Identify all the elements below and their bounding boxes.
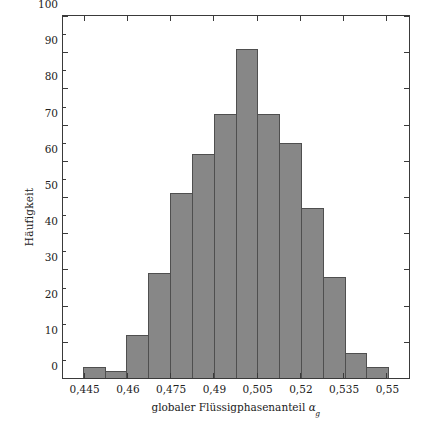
x-axis-tick-mirror — [127, 15, 128, 21]
x-axis-title-subscript: g — [315, 409, 320, 418]
x-axis-title: globaler Flüssigphasenanteil αg — [62, 401, 410, 416]
y-axis-minor-tick — [62, 324, 66, 325]
x-axis-tick — [386, 373, 387, 379]
y-axis-tick-mirror — [404, 88, 410, 89]
y-axis-tick-mirror — [404, 52, 410, 53]
x-axis-tick-label: 0,475 — [156, 383, 186, 395]
histogram-bar — [257, 114, 280, 378]
histogram-bar — [170, 193, 193, 378]
x-axis-tick-label: 0,505 — [243, 383, 273, 395]
histogram-bar — [126, 335, 149, 378]
histogram-bar — [148, 273, 171, 378]
histogram-bars — [63, 16, 409, 378]
y-axis-tick-label: 50 — [45, 179, 58, 191]
y-axis-tick-mirror — [404, 378, 410, 379]
histogram-bar — [279, 143, 302, 378]
y-axis-tick-mirror — [404, 161, 410, 162]
x-axis-tick-mirror — [213, 15, 214, 21]
y-axis-tick — [62, 269, 68, 270]
x-axis-tick — [343, 373, 344, 379]
y-axis-minor-tick — [62, 143, 66, 144]
histogram-bar — [105, 371, 128, 378]
y-axis-tick-mirror — [404, 233, 410, 234]
y-axis-tick-label: 0 — [51, 360, 58, 372]
y-axis-tick — [62, 52, 68, 53]
x-axis-tick-mirror — [300, 15, 301, 21]
histogram-bar — [83, 367, 106, 378]
y-axis-tick — [62, 233, 68, 234]
y-axis-tick-mirror — [404, 197, 410, 198]
y-axis-minor-tick — [62, 215, 66, 216]
y-axis-minor-tick — [62, 288, 66, 289]
x-axis-tick — [213, 373, 214, 379]
y-axis-tick — [62, 342, 68, 343]
histogram-bar — [301, 208, 324, 378]
x-axis-tick-label: 0,52 — [289, 383, 312, 395]
y-axis-tick — [62, 197, 68, 198]
x-axis-tick-label: 0,445 — [70, 383, 100, 395]
x-axis-tick-mirror — [386, 15, 387, 21]
y-axis-tick-mirror — [404, 306, 410, 307]
y-axis-tick-label: 80 — [45, 70, 58, 82]
histogram-figure: Häufigkeit 0102030405060708090100 0,4450… — [0, 0, 432, 434]
y-axis-tick — [62, 88, 68, 89]
y-axis-tick — [62, 378, 68, 379]
y-axis-tick — [62, 16, 68, 17]
y-axis-tick-label: 40 — [45, 215, 58, 227]
histogram-bar — [236, 49, 259, 378]
y-axis-title-label: Häufigkeit — [23, 188, 35, 246]
y-axis-minor-tick — [62, 360, 66, 361]
y-axis-tick-mirror — [404, 16, 410, 17]
y-axis-tick-label: 60 — [45, 143, 58, 155]
histogram-bar — [323, 277, 346, 378]
y-axis-tick-label: 20 — [45, 288, 58, 300]
y-axis-tick-label: 30 — [45, 251, 58, 263]
x-axis-tick-label: 0,49 — [203, 383, 226, 395]
x-axis-tick-label: 0,46 — [116, 383, 139, 395]
x-axis-tick-mirror — [84, 15, 85, 21]
y-axis-tick-mirror — [404, 125, 410, 126]
x-axis-tick — [127, 373, 128, 379]
y-axis-tick-label: 10 — [45, 324, 58, 336]
x-axis-title-text: globaler Flüssigphasenanteil — [151, 401, 305, 413]
x-axis-tick-label: 0,55 — [376, 383, 399, 395]
y-axis-tick-label: 90 — [45, 34, 58, 46]
x-axis-tick — [84, 373, 85, 379]
y-axis-minor-tick — [62, 70, 66, 71]
y-axis-tick — [62, 125, 68, 126]
y-axis-tick — [62, 161, 68, 162]
histogram-bar — [214, 114, 237, 378]
x-axis-tick-mirror — [343, 15, 344, 21]
y-axis-tick — [62, 306, 68, 307]
y-axis-minor-tick — [62, 179, 66, 180]
y-axis-minor-tick — [62, 34, 66, 35]
y-axis-tick-mirror — [404, 269, 410, 270]
y-axis-minor-tick — [62, 251, 66, 252]
x-axis-tick — [170, 373, 171, 379]
x-axis-tick — [300, 373, 301, 379]
x-axis-tick-label: 0,535 — [329, 383, 359, 395]
histogram-bar — [192, 154, 215, 378]
y-axis-tick-label: 100 — [38, 0, 58, 10]
x-axis-tick-mirror — [257, 15, 258, 21]
x-axis-tick-mirror — [170, 15, 171, 21]
y-axis-tick-mirror — [404, 342, 410, 343]
x-axis-tick — [257, 373, 258, 379]
plot-area: 0102030405060708090100 0,4450,460,4750,4… — [62, 15, 410, 379]
y-axis-minor-tick — [62, 107, 66, 108]
histogram-bar — [345, 353, 368, 378]
y-axis-tick-label: 70 — [45, 107, 58, 119]
